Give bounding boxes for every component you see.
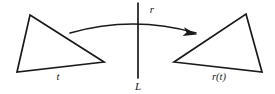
- source-triangle-label: t: [56, 70, 60, 82]
- image-triangle: [174, 14, 262, 72]
- source-triangle: [17, 15, 104, 72]
- mapping-arrow-head: [183, 27, 198, 36]
- mapping-arrow-curve: [70, 24, 196, 33]
- reflection-line-label: L: [134, 80, 141, 92]
- image-triangle-label: r(t): [212, 71, 227, 83]
- figure-canvas: t r(t) r L: [0, 0, 275, 94]
- geometry-figure: t r(t) r L: [0, 0, 275, 94]
- mapping-label: r: [150, 3, 155, 15]
